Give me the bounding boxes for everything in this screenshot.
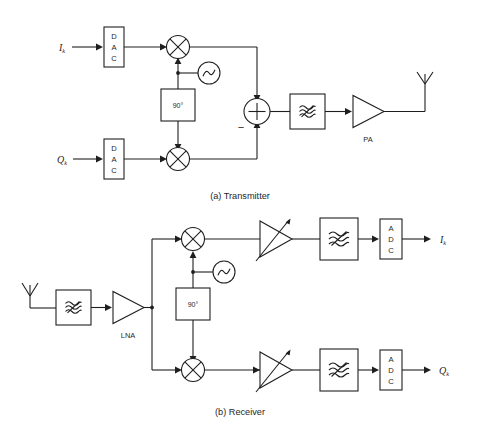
arrow-mixerq-to-vgaq [253,367,260,374]
arrow-rffilter-to-lna [105,304,112,311]
adc-q-letter-2: C [388,377,394,386]
dac-i-letter-0: D [111,32,117,41]
arrow-split-to-mixeri [175,236,182,243]
local-oscillator [198,62,220,84]
arrow-daci-to-mixeri [160,44,167,51]
phase-shifter-90-rx-label: 90° [188,301,199,308]
low-noise-amplifier: LNA [113,292,144,340]
bandpass-filter [290,94,325,129]
receiver-section: LNA 90° [22,218,449,417]
mixer-q [167,148,190,171]
arrow-split-to-mixerq [175,367,182,374]
in-phase-output: Ik [439,234,446,246]
dac-i: D A C [104,27,124,67]
variable-gain-amplifier-i [256,219,292,262]
in-phase-input-label: Ik [58,42,65,54]
low-noise-amplifier-label: LNA [121,331,135,340]
arrow-adcq-to-output [424,367,431,374]
adc-q-letter-1: D [388,366,394,375]
quadrature-output: Qk [439,365,449,377]
dac-q-letter-2: C [111,166,117,175]
dac-i-letter-2: C [111,54,117,63]
power-amplifier: PA [353,96,384,144]
variable-gain-amplifier-q [256,350,292,393]
power-amplifier-label: PA [363,135,372,144]
receiver-caption: (b) Receiver [215,407,265,417]
arrow-dacq-to-mixerq [160,156,167,163]
adc-i: A D C [380,219,402,259]
arrow-lo-to-mixeri-rx [190,251,197,258]
quadrature-input-label: Qk [57,154,67,166]
arrow-adci-to-output [424,236,431,243]
dac-q-letter-0: D [111,144,117,153]
arrow-i-to-dac [96,44,103,51]
baseband-filter-i [320,218,358,260]
rf-bandpass-filter [56,290,91,325]
transmitter-section: Ik D A C [57,27,433,201]
transceiver-diagram: Ik D A C [0,0,480,432]
arrow-filteri-to-adci [372,236,379,243]
phase-shifter-90: 90° [161,89,195,121]
in-phase-output-label: Ik [439,234,446,246]
summing-junction [244,99,270,125]
transmit-antenna [417,72,433,84]
adc-i-letter-1: D [388,235,394,244]
quadrature-output-label: Qk [439,365,449,377]
phase-shifter-90-rx: 90° [176,288,210,320]
in-phase-input: Ik [58,42,65,54]
mixer-i-rx [182,228,205,251]
quadrature-input: Qk [57,154,67,166]
arrow-q-to-dac [96,156,103,163]
dac-q: D A C [104,139,124,179]
local-oscillator-rx [213,261,235,283]
phase-shifter-90-label: 90° [173,102,184,109]
adc-q: A D C [380,350,402,390]
arrow-filterq-to-adcq [372,367,379,374]
transmitter-caption: (a) Transmitter [210,191,270,201]
summing-junction-minus-sign: − [238,121,244,133]
baseband-filter-q [320,349,358,391]
mixer-q-rx [182,359,205,382]
adc-i-letter-2: C [388,246,394,255]
arrow-filter-to-pa [345,108,352,115]
receive-antenna [22,283,38,308]
mixer-i [167,36,190,59]
